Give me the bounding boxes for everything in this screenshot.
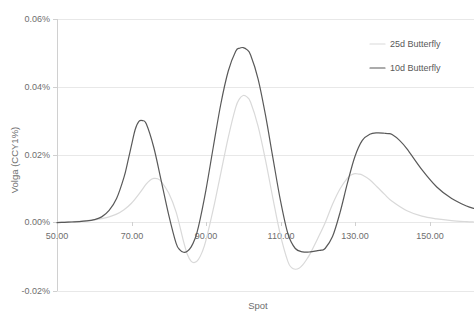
x-tick-label-150: 150.00 bbox=[416, 231, 444, 241]
x-axis-title: Spot bbox=[248, 300, 268, 311]
legend-label-25d-butterfly: 25d Butterfly bbox=[390, 39, 441, 49]
y-tick-label--0.02: -0.02% bbox=[21, 286, 50, 296]
series-line-25d-butterfly bbox=[57, 95, 474, 269]
y-axis bbox=[53, 19, 57, 291]
y-tick-label-0.02: 0.02% bbox=[24, 150, 50, 160]
series-group bbox=[57, 47, 474, 269]
y-tick-label-0.04: 0.04% bbox=[24, 82, 50, 92]
x-tick-label-70: 70.00 bbox=[121, 231, 144, 241]
y-tick-label-0.00: 0.00% bbox=[24, 217, 50, 227]
y-tick-label-0.06: 0.06% bbox=[24, 14, 50, 24]
legend: 25d Butterfly 10d Butterfly bbox=[370, 39, 441, 73]
y-tick-labels: 0.06% 0.04% 0.02% 0.00% -0.02% bbox=[21, 14, 50, 296]
x-tick-label-50: 50.00 bbox=[46, 231, 69, 241]
legend-label-10d-butterfly: 10d Butterfly bbox=[390, 63, 441, 73]
y-axis-title: Volga (CCY1%) bbox=[9, 127, 20, 194]
volga-chart: 0.06% 0.04% 0.02% 0.00% -0.02% 50.00 70.… bbox=[0, 0, 474, 323]
legend-entry-10d-butterfly[interactable]: 10d Butterfly bbox=[370, 63, 441, 73]
x-ticks bbox=[57, 222, 430, 226]
x-tick-labels: 50.00 70.00 90.00 110.00 130.00 150.00 bbox=[46, 231, 444, 241]
chart-canvas: 0.06% 0.04% 0.02% 0.00% -0.02% 50.00 70.… bbox=[0, 0, 474, 323]
legend-entry-25d-butterfly[interactable]: 25d Butterfly bbox=[370, 39, 441, 49]
x-tick-label-130: 130.00 bbox=[341, 231, 369, 241]
